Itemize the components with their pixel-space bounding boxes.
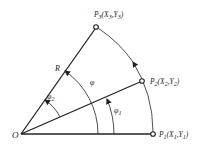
phi2-label: φ2 — [47, 92, 54, 102]
outer-arc — [133, 62, 153, 132]
outer-arc-upper — [98, 28, 133, 62]
p3-label: P3(X3,Y3) — [93, 10, 124, 20]
origin-label: O — [12, 130, 19, 140]
point-p3 — [94, 25, 99, 30]
arc-diagram: O R φ φ1 φ2 P1(X1,Y1) P2(X2,Y2) P3(X3,Y3… — [0, 0, 204, 147]
phi1-arc — [107, 99, 114, 134]
phi2-arc — [45, 100, 60, 117]
radius-label: R — [54, 64, 60, 73]
point-p1 — [151, 132, 156, 137]
point-p2 — [140, 79, 145, 84]
phi1-label: φ1 — [114, 106, 121, 116]
p1-label: P1(X1,Y1) — [158, 130, 189, 140]
phi-label: φ — [90, 78, 95, 87]
p2-label: P2(X2,Y2) — [149, 77, 180, 87]
